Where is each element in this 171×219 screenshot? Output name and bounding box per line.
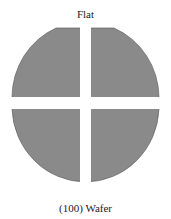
wafer-label: (100) Wafer — [0, 202, 171, 214]
wafer-diagram — [0, 0, 171, 219]
quadrant-top-left — [0, 0, 80, 97]
quadrant-top-right — [91, 0, 171, 97]
